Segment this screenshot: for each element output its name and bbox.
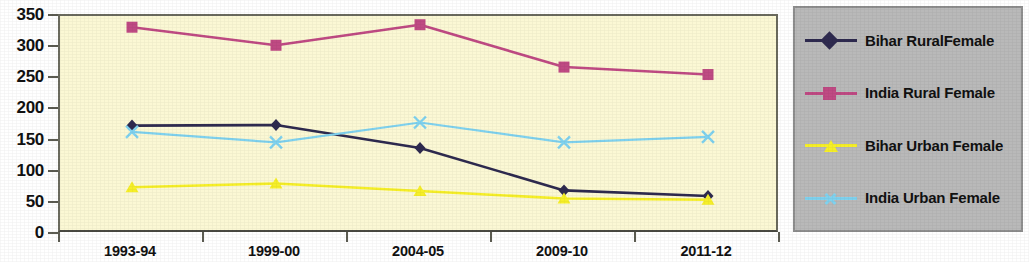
- data-point-marker: [559, 62, 570, 73]
- y-axis: 350300250200150100500: [0, 0, 58, 248]
- y-tick-label: 100: [17, 161, 44, 178]
- chart-container: 350300250200150100500 1993-941999-002004…: [0, 0, 1029, 262]
- x-tick-mark: [634, 232, 636, 242]
- x-tick-label: 1993-94: [104, 243, 156, 259]
- y-tick-mark: [48, 107, 58, 109]
- legend-item: India Rural Female: [805, 76, 1021, 110]
- y-tick-label: 50: [26, 192, 44, 209]
- x-tick-label: 2004-05: [392, 243, 444, 259]
- data-point-marker: [127, 22, 138, 33]
- series-line: [132, 25, 708, 75]
- legend-key-bihar-urban-female: [805, 137, 857, 153]
- y-tick-label: 0: [35, 224, 44, 241]
- x-tick-mark: [202, 232, 204, 242]
- legend-key-india-urban-female: [805, 190, 857, 206]
- legend-label: Bihar RuralFemale: [865, 32, 994, 49]
- x-tick-mark: [778, 232, 780, 242]
- data-point-marker: [703, 69, 714, 80]
- data-point-marker: [271, 40, 282, 51]
- series-lines: [60, 16, 780, 234]
- data-series: [127, 19, 714, 80]
- y-tick-label: 350: [17, 6, 44, 23]
- legend-key-bihar-rural-female: [805, 32, 857, 48]
- legend-item: Bihar RuralFemale: [805, 23, 1021, 57]
- x-tick-mark: [58, 232, 60, 242]
- y-tick-mark: [48, 232, 58, 234]
- y-tick-label: 150: [17, 130, 44, 147]
- data-point-marker: [415, 142, 426, 154]
- x-tick-mark: [490, 232, 492, 242]
- data-point-marker: [415, 19, 426, 30]
- y-tick-mark: [48, 170, 58, 172]
- y-tick-mark: [48, 45, 58, 47]
- y-tick-label: 200: [17, 99, 44, 116]
- data-point-marker: [127, 120, 138, 132]
- x-tick-mark: [346, 232, 348, 242]
- x-tick-label: 1999-00: [248, 243, 300, 259]
- legend-label: India Urban Female: [865, 189, 1000, 206]
- x-tick-label: 2011-12: [680, 243, 731, 259]
- data-point-marker: [271, 119, 282, 131]
- y-tick-label: 300: [17, 37, 44, 54]
- legend-label: Bihar Urban Female: [865, 137, 1003, 154]
- legend-label: India Rural Female: [865, 84, 995, 101]
- legend-key-india-rural-female: [805, 85, 857, 101]
- x-axis: 1993-941999-002004-052009-102011-12: [58, 232, 780, 262]
- x-tick-label: 2009-10: [536, 243, 588, 259]
- y-tick-mark: [48, 76, 58, 78]
- legend-item: Bihar Urban Female: [805, 128, 1021, 162]
- y-tick-mark: [48, 14, 58, 16]
- y-tick-mark: [48, 139, 58, 141]
- legend-item: India Urban Female: [805, 181, 1021, 215]
- chart-legend: Bihar RuralFemale India Rural Female Bih…: [793, 6, 1023, 232]
- y-tick-label: 250: [17, 68, 44, 85]
- y-tick-mark: [48, 201, 58, 203]
- data-series: [126, 178, 715, 205]
- plot-area: [58, 14, 778, 232]
